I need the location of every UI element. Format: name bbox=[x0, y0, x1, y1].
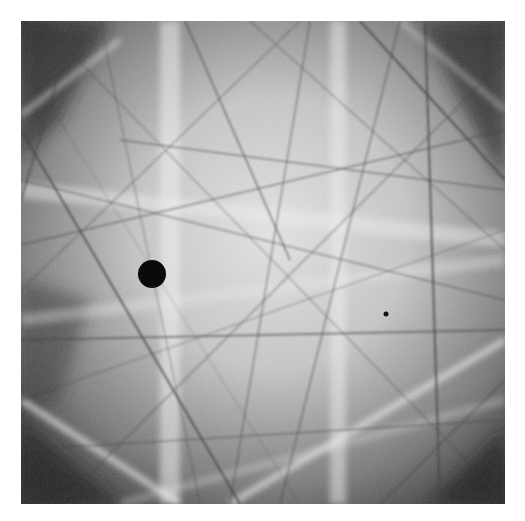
kikuchi-pattern-graphic bbox=[21, 21, 505, 504]
diffraction-pattern-photo bbox=[21, 21, 505, 504]
film-grain bbox=[21, 21, 505, 504]
small-dark-dot bbox=[384, 312, 389, 317]
beam-stop-spot bbox=[138, 260, 166, 288]
